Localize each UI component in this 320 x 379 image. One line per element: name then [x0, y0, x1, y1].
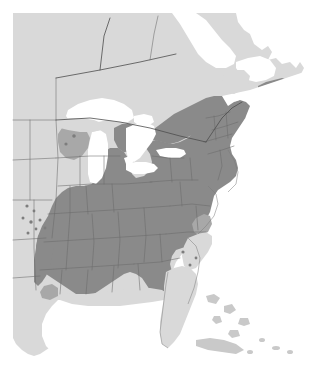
bahamas-island-7 — [272, 346, 280, 350]
isolate-dot — [25, 204, 28, 207]
bahamas-island-8 — [287, 350, 293, 354]
isolate-dot — [72, 134, 76, 138]
bahamas-island-6 — [259, 338, 265, 342]
bahamas-island-9 — [247, 350, 253, 354]
range-map-canvas — [0, 0, 320, 379]
isolate-dot — [22, 217, 25, 220]
isolate-dot — [64, 142, 67, 145]
isolate-dot — [29, 220, 32, 223]
isolate-dot — [39, 219, 42, 222]
isolate-dot — [35, 228, 38, 231]
isolate-dot — [195, 257, 198, 260]
isolate-dot — [189, 264, 192, 267]
isolate-dot — [27, 232, 30, 235]
range-map-figure — [0, 0, 320, 379]
isolate-dot — [44, 227, 47, 230]
isolate-dot — [33, 210, 36, 213]
isolate-dot — [181, 250, 184, 253]
